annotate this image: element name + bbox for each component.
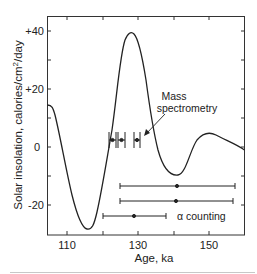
arrow-head-icon bbox=[144, 129, 150, 136]
plot-frame bbox=[48, 17, 245, 236]
y-tick-label: -20 bbox=[28, 199, 44, 211]
y-tick-label: 0 bbox=[34, 141, 40, 153]
y-axis-label: Solar insolation, calories/cm2/day bbox=[11, 40, 24, 210]
annotation-arrow bbox=[146, 114, 165, 134]
x-tick-label: 130 bbox=[129, 239, 147, 251]
x-axis-ticks bbox=[67, 17, 209, 236]
mass-spectrometry-label: Massspectrometry bbox=[157, 90, 218, 114]
y-tick-label: +40 bbox=[25, 25, 44, 37]
mass-spectrometry-points bbox=[109, 132, 140, 148]
y-tick-label: +20 bbox=[25, 83, 44, 95]
insolation-chart: +40 +20 0 -20 110 130 150 Age, ka Solar … bbox=[0, 0, 257, 274]
y-axis-ticks bbox=[48, 31, 245, 205]
x-axis-label: Age, ka bbox=[135, 252, 175, 264]
x-tick-label: 150 bbox=[200, 239, 218, 251]
x-tick-label: 110 bbox=[58, 239, 76, 251]
alpha-counting-label: α counting bbox=[177, 210, 226, 222]
